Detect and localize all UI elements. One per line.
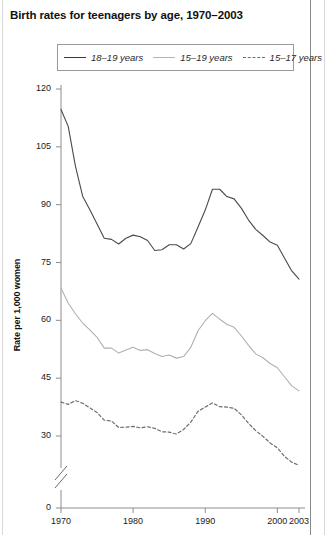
y-axis-tick-label: 0 <box>25 502 51 512</box>
chart-page: Birth rates for teenagers by age, 1970–2… <box>0 0 327 535</box>
axis-break-mark <box>55 474 67 488</box>
axes-layer <box>55 85 305 513</box>
plot-area: 03045607590105120 19701980199020002003 R… <box>0 0 327 535</box>
y-axis-tick-label: 45 <box>25 372 51 382</box>
y-axis-tick-label: 30 <box>25 430 51 440</box>
axis-break-mark <box>55 466 67 480</box>
series-line-1 <box>61 109 299 279</box>
y-axis-tick-label: 90 <box>25 199 51 209</box>
series-line-3 <box>61 401 299 466</box>
y-axis-tick-label: 60 <box>25 314 51 324</box>
y-axis-title: Rate per 1,000 women <box>12 250 22 360</box>
y-axis-tick-label: 120 <box>25 83 51 93</box>
y-axis-tick-label: 105 <box>25 141 51 151</box>
series-line-2 <box>61 288 299 391</box>
chart-plot-svg <box>0 0 327 535</box>
series-layer <box>61 109 299 465</box>
x-axis-tick-label: 1980 <box>117 516 149 526</box>
x-axis-tick-label: 1970 <box>45 516 77 526</box>
y-axis-tick-label: 75 <box>25 257 51 267</box>
x-axis-tick-label: 2003 <box>283 516 315 526</box>
x-axis-tick-label: 1990 <box>189 516 221 526</box>
